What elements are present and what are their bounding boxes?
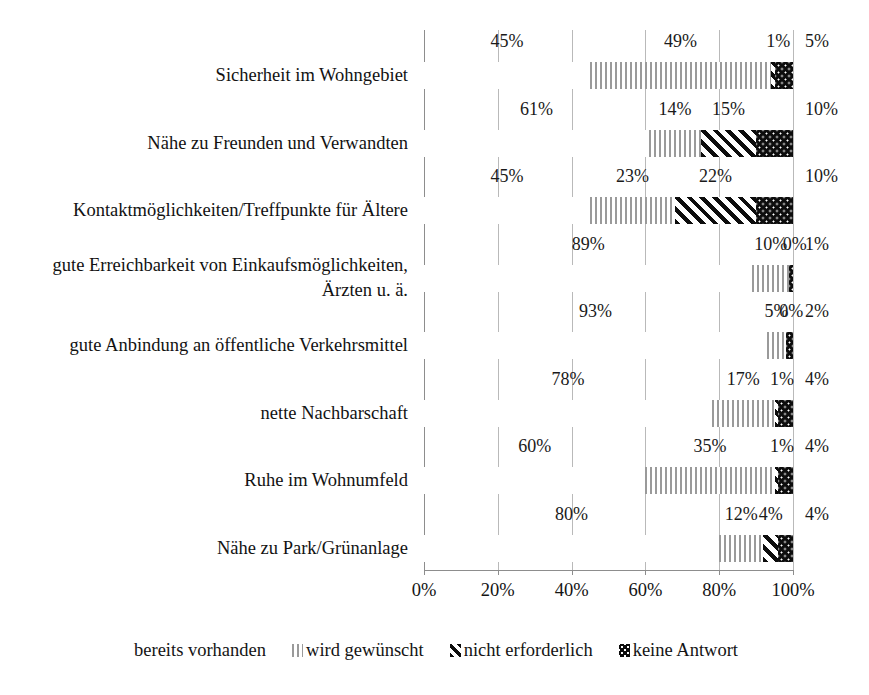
stacked-bar (424, 62, 793, 89)
legend-item[interactable]: wird gewünscht (292, 640, 424, 661)
x-tick-label: 100% (771, 578, 814, 602)
bar-segment-0 (424, 130, 649, 157)
x-tick-label: 0% (412, 578, 437, 602)
category-label: Nähe zu Freunden und Verwandten (0, 131, 416, 156)
bar-segment-1 (645, 467, 774, 494)
value-label: 80% (555, 503, 588, 525)
category-label: gute Anbindung an öffentliche Verkehrsmi… (0, 333, 416, 358)
black-dotted-swatch-icon (619, 644, 630, 657)
category-label: Nähe zu Park/Grünanlage (0, 536, 416, 561)
x-axis-tick (793, 570, 794, 575)
value-label: 1% (770, 435, 794, 457)
value-label: 49% (664, 30, 697, 52)
category-label: Sicherheit im Wohngebiet (0, 63, 416, 88)
x-axis-tick (424, 570, 425, 575)
x-tick-label: 60% (628, 578, 662, 602)
value-label: 89% (572, 233, 605, 255)
category-label: Kontaktmöglichkeiten/Treffpunkte für Ält… (0, 198, 416, 223)
value-label: 35% (693, 435, 726, 457)
value-label: 12% (725, 503, 758, 525)
x-axis-tick (719, 570, 720, 575)
stacked-bar (424, 265, 793, 292)
value-label: 2% (805, 300, 829, 322)
vertical-lines-swatch-icon (292, 644, 303, 657)
value-label: 22% (699, 165, 732, 187)
value-label: 14% (658, 98, 691, 120)
category-label-line: Sicherheit im Wohngebiet (0, 63, 408, 88)
legend-item[interactable]: bereits vorhanden (131, 640, 266, 661)
bar-segment-0 (424, 265, 752, 292)
chart-row: 78%17%1%4% (424, 368, 793, 436)
category-label: gute Erreichbarkeit von Einkaufsmöglichk… (0, 253, 416, 303)
legend-label: nicht erforderlich (464, 640, 593, 661)
value-label: 17% (727, 368, 760, 390)
bar-segment-0 (424, 400, 712, 427)
plot-area: 45%49%1%5%61%14%15%10%45%23%22%10%89%10%… (424, 30, 793, 570)
category-label: Ruhe im Wohnumfeld (0, 468, 416, 493)
chart-legend: bereits vorhandenwird gewünschtnicht erf… (0, 640, 869, 661)
x-axis-tick (645, 570, 646, 575)
x-tick-label: 40% (555, 578, 589, 602)
bar-segment-0 (424, 535, 719, 562)
bar-segment-0 (424, 197, 590, 224)
value-label: 1% (770, 368, 794, 390)
value-label: 61% (520, 98, 553, 120)
stacked-bar (424, 332, 793, 359)
x-tick-label: 20% (481, 578, 515, 602)
value-label: 4% (805, 435, 829, 457)
bar-segment-3 (786, 332, 793, 359)
value-label: 1% (766, 30, 790, 52)
legend-label: keine Antwort (633, 640, 738, 661)
stacked-bar (424, 535, 793, 562)
stacked-bar (424, 130, 793, 157)
value-label: 10% (805, 165, 838, 187)
bar-segment-0 (424, 332, 767, 359)
bar-segment-3 (778, 535, 793, 562)
bar-segment-1 (649, 130, 701, 157)
stacked-bar-chart: 45%49%1%5%61%14%15%10%45%23%22%10%89%10%… (0, 0, 869, 695)
bar-segment-2 (675, 197, 756, 224)
bar-segment-1 (767, 332, 785, 359)
bar-segment-1 (712, 400, 775, 427)
value-label: 93% (579, 300, 612, 322)
chart-row: 60%35%1%4% (424, 435, 793, 503)
chart-row: 45%23%22%10% (424, 165, 793, 233)
bar-segment-3 (789, 265, 793, 292)
x-axis-tick (572, 570, 573, 575)
bar-segment-3 (756, 130, 793, 157)
stacked-bar (424, 400, 793, 427)
value-label: 0% (779, 300, 803, 322)
category-label-line: gute Erreichbarkeit von Einkaufsmöglichk… (0, 253, 408, 278)
value-label: 4% (805, 503, 829, 525)
value-label: 60% (518, 435, 551, 457)
value-label: 10% (805, 98, 838, 120)
bar-segment-1 (590, 62, 771, 89)
x-axis-line (424, 570, 794, 571)
category-label-line: Nähe zu Freunden und Verwandten (0, 131, 408, 156)
bar-segment-3 (775, 62, 793, 89)
chart-row: 93%5%0%2% (424, 300, 793, 368)
category-label-column: Sicherheit im WohngebietNähe zu Freunden… (0, 30, 416, 570)
legend-item[interactable]: keine Antwort (619, 640, 738, 661)
bar-segment-1 (752, 265, 789, 292)
value-label: 5% (805, 30, 829, 52)
value-label: 0% (783, 233, 807, 255)
bar-segment-3 (756, 197, 793, 224)
x-tick-label: 80% (702, 578, 736, 602)
legend-item[interactable]: nicht erforderlich (450, 640, 593, 661)
bar-segment-3 (778, 400, 793, 427)
category-label: nette Nachbarschaft (0, 401, 416, 426)
value-label: 4% (759, 503, 783, 525)
stacked-bar (424, 197, 793, 224)
value-label: 45% (491, 165, 524, 187)
chart-row: 89%10%0%1% (424, 233, 793, 301)
bar-segment-2 (763, 535, 778, 562)
value-label: 23% (616, 165, 649, 187)
category-label-line: Kontaktmöglichkeiten/Treffpunkte für Ält… (0, 198, 408, 223)
bar-segment-0 (424, 62, 590, 89)
diagonal-stripes-swatch-icon (450, 644, 461, 657)
bar-segment-0 (424, 467, 645, 494)
value-label: 1% (805, 233, 829, 255)
category-label-line: Nähe zu Park/Grünanlage (0, 536, 408, 561)
value-label: 78% (551, 368, 584, 390)
